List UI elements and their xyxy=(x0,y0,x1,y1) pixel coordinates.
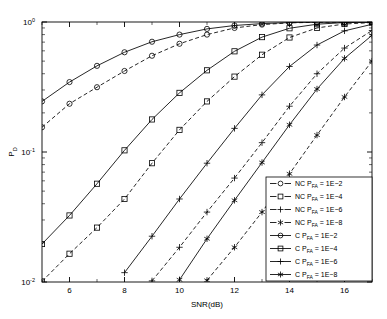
x-tick-label: 12 xyxy=(230,286,239,295)
legend: NC PFA = 1E−2NC PFA = 1E−4NC PFA = 1E−6N… xyxy=(266,177,372,281)
x-tick-label: 6 xyxy=(67,286,72,295)
y-axis-title: PD xyxy=(7,147,18,156)
y-tick-label: 10-1 xyxy=(21,147,35,157)
x-axis-title: SNR(dB) xyxy=(191,300,223,309)
y-tick-label: 10-2 xyxy=(21,277,35,287)
x-tick-label: 8 xyxy=(122,286,127,295)
plot-canvas: 10010-110-26810121416SNR(dB)PDNC PFA = 1… xyxy=(0,0,387,319)
x-tick-label: 14 xyxy=(285,286,294,295)
x-tick-label: 16 xyxy=(340,286,349,295)
y-tick-label: 100 xyxy=(23,17,35,27)
chart-figure: 10010-110-26810121416SNR(dB)PDNC PFA = 1… xyxy=(0,0,387,319)
x-tick-label: 10 xyxy=(175,286,184,295)
